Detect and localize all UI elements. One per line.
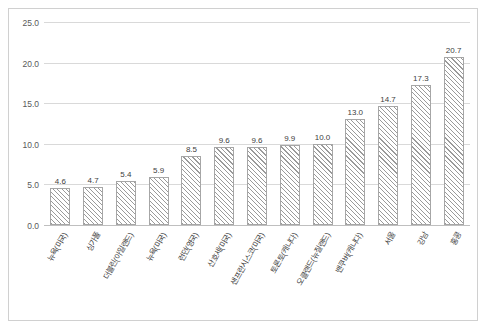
x-axis-tick-label: 뉴욕(미국) (44, 230, 70, 263)
x-axis-tick-label: 강남 (414, 230, 430, 247)
bar-item: 13.0 (339, 22, 372, 225)
x-label-item: 더블린(아일랜드) (110, 228, 143, 308)
bar (149, 177, 169, 225)
x-label-item: 서울 (372, 228, 405, 308)
x-axis-tick-label: 산호세(미국) (205, 230, 234, 269)
bar-item: 10.0 (306, 22, 339, 225)
bar (214, 147, 234, 225)
bar (50, 188, 70, 225)
x-axis-tick-label: 싱가폴 (83, 230, 103, 253)
bar-item: 5.4 (110, 22, 143, 225)
bar-item: 9.9 (273, 22, 306, 225)
x-axis-tick-label: 런던(영국) (175, 230, 201, 263)
bar-value-label: 17.3 (413, 75, 429, 83)
x-axis-tick-label: 뉴욕(미국) (143, 230, 169, 263)
bar (247, 147, 267, 225)
bar-value-label: 4.7 (88, 177, 99, 185)
bar (116, 181, 136, 225)
y-tick-label: 5.0 (27, 180, 39, 190)
y-tick-label: 20.0 (22, 59, 39, 69)
bar (444, 57, 464, 225)
bar-item: 9.6 (241, 22, 274, 225)
bar-value-label: 13.0 (347, 109, 363, 117)
bar (313, 144, 333, 225)
x-axis-tick-label: 홍콩 (447, 230, 463, 247)
bar (83, 187, 103, 225)
bar-value-label: 8.5 (186, 146, 197, 154)
bar (345, 119, 365, 225)
x-label-item: 강남 (404, 228, 437, 308)
bar (411, 85, 431, 225)
bar-value-label: 20.7 (446, 47, 462, 55)
y-tick-label: 25.0 (22, 18, 39, 28)
bar-value-label: 5.4 (120, 171, 131, 179)
bar (378, 106, 398, 225)
bar-value-label: 9.9 (284, 135, 295, 143)
x-label-item: 홍콩 (437, 228, 470, 308)
bar-value-label: 10.0 (315, 134, 331, 142)
x-label-item: 뉴욕(미국) (142, 228, 175, 308)
bar-item: 4.6 (44, 22, 77, 225)
x-axis-tick-label: 서울 (381, 230, 397, 247)
x-label-item: 런던(영국) (175, 228, 208, 308)
x-axis-labels: 뉴욕(미국) 싱가폴 더블린(아일랜드) 뉴욕(미국) 런던(영국) 산호세(미… (44, 228, 470, 308)
bar-value-label: 14.7 (380, 96, 396, 104)
bar-item: 4.7 (77, 22, 110, 225)
bar-value-label: 5.9 (153, 167, 164, 175)
y-tick-label: 0.0 (27, 221, 39, 231)
bar-item: 14.7 (372, 22, 405, 225)
bar-item: 9.6 (208, 22, 241, 225)
bar-value-label: 9.6 (219, 137, 230, 145)
bar-item: 17.3 (404, 22, 437, 225)
bar-item: 8.5 (175, 22, 208, 225)
bar (280, 145, 300, 225)
x-label-item: 밴쿠버(캐나다) (339, 228, 372, 308)
bar-value-label: 4.6 (55, 178, 66, 186)
x-axis-line: 0.0 (44, 225, 470, 226)
bar-chart: 25.0 20.0 15.0 10.0 5.0 0.0 4.6 4.7 (0, 0, 487, 331)
plot-area: 25.0 20.0 15.0 10.0 5.0 0.0 4.6 4.7 (44, 22, 470, 225)
bar-value-label: 9.6 (251, 137, 262, 145)
bar-item: 20.7 (437, 22, 470, 225)
x-label-item: 뉴욕(미국) (44, 228, 77, 308)
y-tick-label: 15.0 (22, 99, 39, 109)
bar-item: 5.9 (142, 22, 175, 225)
bar (181, 156, 201, 225)
y-tick-label: 10.0 (22, 140, 39, 150)
bar-series: 4.6 4.7 5.4 5.9 8.5 9.6 (44, 22, 470, 225)
